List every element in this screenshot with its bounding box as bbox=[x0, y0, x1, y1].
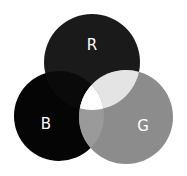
set-label-g: G bbox=[137, 117, 149, 135]
set-label-b: B bbox=[41, 115, 51, 133]
set-label-r: R bbox=[87, 36, 97, 54]
rgb-venn-diagram: R B G bbox=[0, 0, 187, 176]
